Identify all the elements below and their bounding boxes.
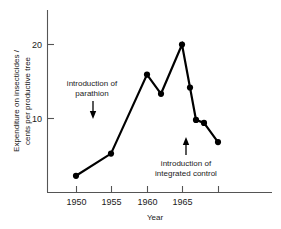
x-axis-title: Year [147, 213, 164, 222]
data-point [158, 91, 164, 97]
data-point [193, 117, 199, 123]
data-point [73, 173, 79, 179]
x-tick-label-1955: 1955 [101, 197, 121, 207]
data-point [201, 120, 207, 126]
annotation-integrated-line2: integrated control [155, 169, 217, 178]
data-point [179, 41, 185, 47]
annotation-parathion-line2: parathion [75, 89, 108, 98]
up-arrow-icon [183, 137, 189, 145]
x-tick-label-1950: 1950 [66, 197, 86, 207]
down-arrow-icon [90, 111, 96, 119]
data-point [144, 72, 150, 78]
y-tick-label-20: 20 [32, 40, 42, 50]
y-axis-title-line1: Expenditure on insecticides / [12, 49, 21, 152]
chart-svg: 20 10 1950 1955 1960 1965 Year Expenditu… [0, 0, 281, 229]
x-tick-label-1960: 1960 [137, 197, 157, 207]
data-series-line [76, 45, 218, 176]
y-tick-label-10: 10 [32, 114, 42, 124]
chart-container: 20 10 1950 1955 1960 1965 Year Expenditu… [0, 0, 281, 229]
data-point [187, 84, 193, 90]
y-axis-title-line2: cents per productive tree [23, 56, 32, 145]
annotation-parathion-line1: introduction of [67, 79, 118, 88]
annotation-integrated-line1: introduction of [161, 159, 212, 168]
data-point [215, 139, 221, 145]
data-point [108, 151, 114, 157]
x-tick-label-1965: 1965 [172, 197, 192, 207]
